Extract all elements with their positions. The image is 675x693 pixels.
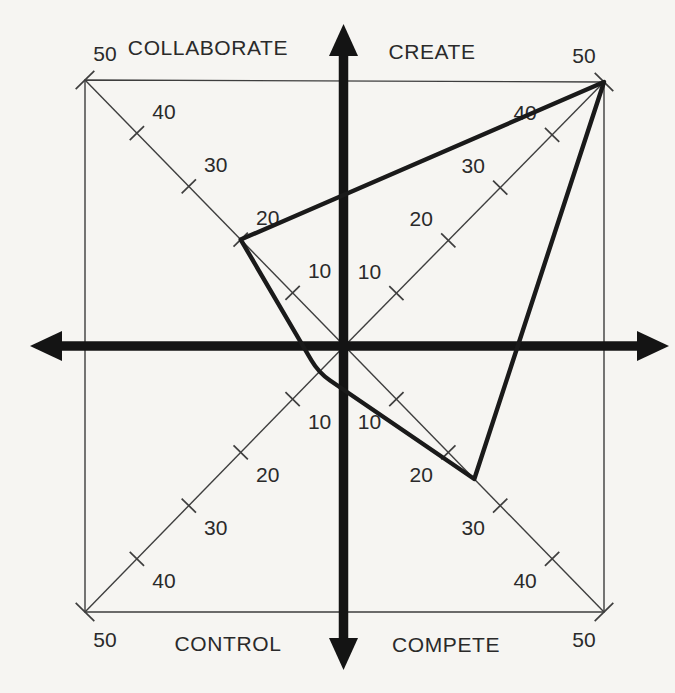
- culture-profile-polygon: [241, 82, 604, 479]
- tick-label-collaborate-10: 10: [308, 259, 331, 282]
- quadrant-label-collaborate: COLLABORATE: [128, 36, 288, 60]
- tick-label-compete-20: 20: [410, 463, 433, 486]
- tick-label-create-50: 50: [572, 44, 595, 67]
- tick-label-control-50: 50: [93, 628, 116, 651]
- tick-label-create-20: 20: [410, 207, 433, 230]
- tick-label-collaborate-40: 40: [152, 100, 175, 123]
- chart-canvas: 1020304050102030405010203040501020304050: [0, 0, 675, 693]
- tick-label-collaborate-30: 30: [204, 153, 227, 176]
- quadrant-label-control: CONTROL: [175, 632, 282, 656]
- tick-label-collaborate-50: 50: [93, 42, 116, 65]
- diagonal-create: [345, 82, 605, 346]
- quadrant-label-compete: COMPETE: [392, 633, 500, 657]
- right-arrowhead-icon: [637, 331, 669, 361]
- tick-label-compete-30: 30: [462, 516, 485, 539]
- tick-label-compete-40: 40: [513, 569, 536, 592]
- left-arrowhead-icon: [30, 331, 62, 361]
- tick-label-control-30: 30: [204, 516, 227, 539]
- diagonal-control: [85, 346, 345, 612]
- quadrant-label-create: CREATE: [388, 40, 475, 64]
- tick-label-control-40: 40: [152, 569, 175, 592]
- tick-label-compete-50: 50: [572, 628, 595, 651]
- up-arrowhead-icon: [329, 24, 358, 56]
- tick-label-control-10: 10: [308, 410, 331, 433]
- cvf-profile-chart: 1020304050102030405010203040501020304050…: [0, 0, 675, 693]
- tick-label-create-30: 30: [462, 154, 485, 177]
- down-arrowhead-icon: [329, 638, 358, 670]
- tick-label-control-20: 20: [256, 463, 279, 486]
- tick-label-create-10: 10: [358, 260, 381, 283]
